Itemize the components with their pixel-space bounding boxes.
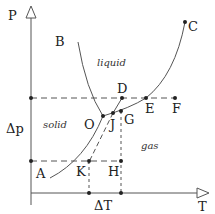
region-gas: gas: [141, 140, 159, 151]
label-B: B: [55, 34, 65, 49]
point-F: [173, 96, 177, 100]
point-G: [119, 109, 123, 113]
label-E: E: [145, 101, 155, 116]
delta-p-label: Δp: [6, 121, 24, 136]
label-K: K: [76, 164, 86, 179]
t-axis-arrow-icon: [197, 188, 209, 198]
point-J: [111, 111, 115, 115]
t-axis-label: T: [198, 199, 207, 214]
point-E: [144, 96, 148, 100]
label-G: G: [124, 112, 134, 127]
point-C: [183, 20, 187, 24]
point-D: [120, 96, 124, 100]
fusion-curve: [78, 42, 103, 116]
label-D: D: [117, 81, 127, 96]
label-O: O: [84, 117, 95, 132]
label-F: F: [172, 101, 181, 116]
label-J: J: [108, 117, 115, 132]
label-A: A: [35, 166, 46, 181]
label-H: H: [108, 164, 119, 179]
delta-t-label: ΔT: [94, 198, 112, 213]
p-axis-arrow-icon: [26, 6, 36, 18]
phase-diagram: P T Δp ΔT solid liquid gas A B C D E F O…: [0, 0, 215, 214]
p-axis-label: P: [8, 8, 17, 23]
region-liquid: liquid: [97, 57, 126, 68]
label-C: C: [188, 19, 198, 34]
point-dp-axis: [29, 96, 33, 100]
point-O: [101, 114, 105, 118]
point-lower-axis: [29, 159, 33, 163]
point-dt-right: [119, 191, 123, 195]
point-dt-left: [87, 191, 91, 195]
point-H: [119, 159, 123, 163]
region-solid: solid: [43, 119, 67, 130]
point-K: [87, 159, 91, 163]
